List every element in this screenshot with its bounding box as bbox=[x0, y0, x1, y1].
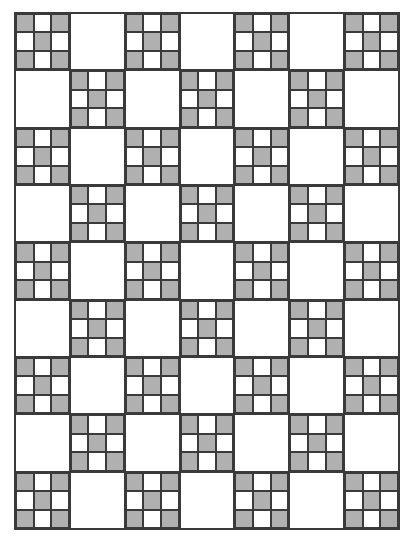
shaded-patch bbox=[308, 204, 326, 222]
shaded-patch bbox=[71, 186, 89, 204]
shaded-patch bbox=[345, 473, 363, 491]
shaded-patch bbox=[181, 108, 199, 126]
plain-patch bbox=[308, 415, 326, 433]
plain-patch bbox=[106, 434, 124, 452]
plain-patch bbox=[363, 280, 381, 298]
shaded-patch bbox=[380, 243, 398, 261]
plain-patch bbox=[88, 223, 106, 241]
shaded-patch bbox=[253, 491, 271, 509]
plain-patch bbox=[16, 376, 34, 394]
plain-square-block bbox=[15, 300, 70, 357]
plain-patch bbox=[235, 491, 253, 509]
shaded-patch bbox=[71, 108, 89, 126]
shaded-patch bbox=[216, 301, 234, 319]
plain-patch bbox=[198, 452, 216, 470]
shaded-patch bbox=[363, 32, 381, 50]
shaded-patch bbox=[16, 243, 34, 261]
plain-square-block bbox=[344, 185, 399, 242]
plain-patch bbox=[198, 71, 216, 89]
ninepatch-block bbox=[125, 472, 180, 529]
plain-patch bbox=[253, 510, 271, 528]
plain-patch bbox=[235, 376, 253, 394]
shaded-patch bbox=[271, 166, 289, 184]
plain-patch bbox=[363, 395, 381, 413]
shaded-patch bbox=[198, 204, 216, 222]
shaded-patch bbox=[16, 51, 34, 69]
plain-square-block bbox=[15, 70, 70, 127]
ninepatch-block bbox=[15, 472, 70, 529]
shaded-patch bbox=[143, 262, 161, 280]
plain-patch bbox=[345, 147, 363, 165]
plain-patch bbox=[16, 147, 34, 165]
shaded-patch bbox=[16, 358, 34, 376]
plain-patch bbox=[235, 262, 253, 280]
plain-patch bbox=[88, 338, 106, 356]
shaded-patch bbox=[34, 491, 52, 509]
plain-patch bbox=[106, 204, 124, 222]
plain-patch bbox=[380, 32, 398, 50]
shaded-patch bbox=[271, 358, 289, 376]
plain-patch bbox=[308, 71, 326, 89]
plain-patch bbox=[308, 301, 326, 319]
shaded-patch bbox=[380, 166, 398, 184]
plain-patch bbox=[271, 376, 289, 394]
plain-square-block bbox=[15, 414, 70, 471]
ninepatch-block bbox=[180, 414, 235, 471]
shaded-patch bbox=[380, 280, 398, 298]
plain-patch bbox=[253, 51, 271, 69]
plain-square-block bbox=[289, 128, 344, 185]
shaded-patch bbox=[380, 395, 398, 413]
ninepatch-block bbox=[125, 13, 180, 70]
ninepatch-block bbox=[234, 242, 289, 299]
shaded-patch bbox=[216, 452, 234, 470]
shaded-patch bbox=[290, 71, 308, 89]
plain-patch bbox=[326, 90, 344, 108]
plain-patch bbox=[253, 14, 271, 32]
shaded-patch bbox=[106, 108, 124, 126]
shaded-patch bbox=[51, 166, 69, 184]
plain-patch bbox=[181, 90, 199, 108]
plain-patch bbox=[198, 108, 216, 126]
shaded-patch bbox=[235, 14, 253, 32]
shaded-patch bbox=[290, 108, 308, 126]
shaded-patch bbox=[16, 395, 34, 413]
ninepatch-block bbox=[125, 242, 180, 299]
shaded-patch bbox=[290, 338, 308, 356]
ninepatch-block bbox=[70, 70, 125, 127]
ninepatch-block bbox=[125, 128, 180, 185]
ninepatch-block bbox=[234, 472, 289, 529]
plain-patch bbox=[161, 147, 179, 165]
ninepatch-block bbox=[70, 414, 125, 471]
plain-square-block bbox=[289, 357, 344, 414]
plain-patch bbox=[143, 510, 161, 528]
plain-patch bbox=[326, 434, 344, 452]
plain-patch bbox=[34, 473, 52, 491]
plain-patch bbox=[88, 71, 106, 89]
plain-square-block bbox=[344, 70, 399, 127]
ninepatch-block bbox=[344, 242, 399, 299]
shaded-patch bbox=[345, 166, 363, 184]
shaded-patch bbox=[161, 280, 179, 298]
plain-patch bbox=[380, 376, 398, 394]
plain-square-block bbox=[234, 70, 289, 127]
ninepatch-block bbox=[180, 300, 235, 357]
plain-patch bbox=[143, 280, 161, 298]
shaded-patch bbox=[88, 90, 106, 108]
plain-square-block bbox=[180, 472, 235, 529]
plain-patch bbox=[88, 452, 106, 470]
plain-square-block bbox=[234, 185, 289, 242]
plain-patch bbox=[16, 262, 34, 280]
shaded-patch bbox=[271, 510, 289, 528]
plain-patch bbox=[308, 338, 326, 356]
ninepatch-block bbox=[344, 128, 399, 185]
ninepatch-block bbox=[289, 300, 344, 357]
plain-patch bbox=[271, 262, 289, 280]
plain-patch bbox=[363, 358, 381, 376]
ninepatch-block bbox=[289, 185, 344, 242]
shaded-patch bbox=[16, 129, 34, 147]
plain-square-block bbox=[180, 242, 235, 299]
shaded-patch bbox=[71, 301, 89, 319]
shaded-patch bbox=[71, 452, 89, 470]
plain-patch bbox=[290, 319, 308, 337]
ninepatch-block bbox=[289, 70, 344, 127]
